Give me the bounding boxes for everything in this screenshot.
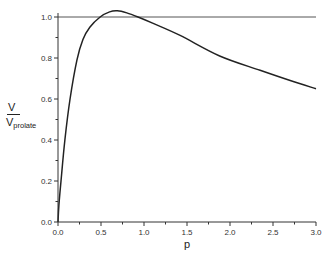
x-axis-ticks: 0.00.51.01.52.02.53.0 bbox=[52, 222, 322, 237]
y-axis-title-denominator: Vprolate bbox=[4, 116, 44, 132]
y-axis-title: V Vprolate bbox=[4, 101, 44, 132]
y-tick-label: 0.8 bbox=[41, 54, 53, 63]
x-tick-label: 2.5 bbox=[267, 228, 279, 237]
x-tick-label: 0.5 bbox=[95, 228, 107, 237]
x-tick-label: 2.0 bbox=[224, 228, 236, 237]
y-tick-label: 1.0 bbox=[41, 13, 53, 22]
y-tick-label: 0.0 bbox=[41, 218, 53, 227]
axes bbox=[58, 13, 316, 222]
y-tick-label: 0.4 bbox=[41, 136, 53, 145]
fraction-bar bbox=[7, 114, 20, 115]
y-axis-title-numerator: V bbox=[4, 101, 44, 113]
y-axis-title-subscript: prolate bbox=[13, 121, 36, 130]
y-tick-label: 0.2 bbox=[41, 177, 53, 186]
plot-area bbox=[58, 11, 316, 222]
x-tick-label: 3.0 bbox=[310, 228, 322, 237]
x-tick-label: 0.0 bbox=[52, 228, 64, 237]
chart: 0.00.51.01.52.02.53.0 0.00.20.40.60.81.0… bbox=[0, 0, 330, 264]
data-curve bbox=[58, 11, 316, 222]
x-tick-label: 1.0 bbox=[138, 228, 150, 237]
x-axis-title: p bbox=[184, 238, 190, 250]
x-tick-label: 1.5 bbox=[181, 228, 193, 237]
